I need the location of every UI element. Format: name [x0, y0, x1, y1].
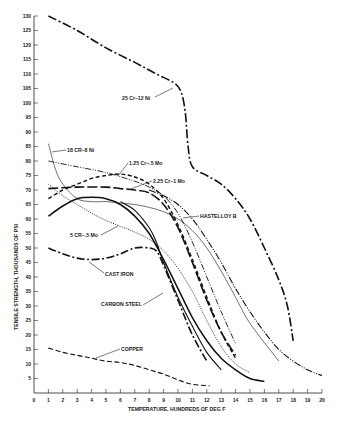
leader-cast-iron	[89, 262, 104, 273]
y-tick-label: 90	[25, 129, 31, 135]
x-tick-label: 8	[148, 397, 151, 403]
label-5cr-5mo: 5 CR–.5 Mo	[70, 232, 98, 238]
x-tick-label: 6	[119, 397, 122, 403]
x-tick-label: 9	[162, 397, 165, 403]
leader-2-25cr-1mo	[128, 181, 152, 190]
series-line-7	[48, 197, 264, 381]
y-tick-label: 20	[25, 332, 31, 338]
leader-carbon-steel	[143, 293, 163, 305]
x-tick-label: 19	[305, 397, 311, 403]
leader-18cr-8ni	[52, 150, 66, 152]
label-carbon-steel: CARBON STEEL	[101, 301, 143, 307]
label-hastelloy-b: HASTELLOY B	[200, 213, 237, 219]
series-line-10	[48, 348, 209, 386]
y-tick-label: 35	[25, 288, 31, 294]
y-tick-label: 55	[25, 230, 31, 236]
x-tick-label: 2	[61, 397, 64, 403]
x-tick-label: 0	[33, 397, 36, 403]
series-line-1	[48, 144, 278, 362]
x-axis-title: TEMPERATURE, HUNDREDS OF DEG F	[128, 406, 225, 412]
x-tick-label: 1	[47, 397, 50, 403]
series-lines	[48, 16, 322, 386]
series-line-2	[48, 161, 235, 344]
y-tick-label: 15	[25, 346, 31, 352]
y-tick-label: 85	[25, 143, 31, 149]
tensile-strength-chart: 0123456789101112131415161718192051015202…	[0, 0, 337, 421]
y-axis-title: TENSILE STRENGTH, THOUSANDS OF PSI	[13, 223, 19, 330]
y-tick-label: 70	[25, 187, 31, 193]
y-tick-label: 130	[23, 13, 32, 19]
y-tick-label: 75	[25, 172, 31, 178]
x-tick-label: 18	[290, 397, 296, 403]
x-tick-label: 16	[262, 397, 268, 403]
y-tick-label: 5	[28, 375, 31, 381]
y-tick-label: 10	[25, 361, 31, 367]
series-labels: 25 Cr–12 Ni 18 CR–8 Ni 1.25 Cr–.5 Mo 2.2…	[52, 88, 237, 358]
leader-25cr-12ni	[155, 88, 173, 97]
label-2-25cr-1mo: 2.25 Cr–1 Mo	[153, 178, 185, 184]
label-cast-iron: CAST IRON	[105, 271, 134, 277]
series-line-9	[120, 202, 221, 370]
y-tick-label: 100	[23, 100, 32, 106]
label-18cr-8ni: 18 CR–8 Ni	[67, 147, 95, 153]
x-tick-label: 10	[175, 397, 181, 403]
x-tick-label: 15	[247, 397, 253, 403]
x-tick-label: 14	[233, 397, 239, 403]
label-25cr-12ni: 25 Cr–12 Ni	[122, 95, 151, 101]
y-tick-label: 60	[25, 216, 31, 222]
y-tick-label: 65	[25, 201, 31, 207]
x-tick-label: 17	[276, 397, 282, 403]
y-tick-label: 80	[25, 158, 31, 164]
y-tick-label: 50	[25, 245, 31, 251]
leader-copper	[96, 349, 120, 358]
x-tick-label: 4	[90, 397, 93, 403]
y-tick-label: 40	[25, 274, 31, 280]
x-tick-label: 11	[190, 397, 196, 403]
y-tick-label: 30	[25, 303, 31, 309]
y-tick-label: 120	[23, 42, 32, 48]
y-tick-label: 125	[23, 27, 32, 33]
y-tick-label: 25	[25, 317, 31, 323]
label-copper: COPPER	[121, 346, 143, 352]
x-tick-label: 5	[105, 397, 108, 403]
leader-hastelloy-b	[183, 216, 199, 218]
y-tick-label: 45	[25, 259, 31, 265]
x-tick-label: 7	[133, 397, 136, 403]
axes: 0123456789101112131415161718192051015202…	[23, 13, 325, 403]
y-tick-label: 105	[23, 85, 32, 91]
series-line-3	[48, 174, 235, 358]
y-tick-label: 95	[25, 114, 31, 120]
x-tick-label: 20	[319, 397, 325, 403]
y-tick-label: 110	[23, 71, 31, 77]
label-1-25cr-5mo: 1.25 Cr–.5 Mo	[129, 160, 162, 166]
leader-5cr-5mo	[101, 226, 118, 235]
x-tick-label: 13	[218, 397, 224, 403]
x-tick-label: 12	[204, 397, 210, 403]
x-tick-label: 3	[76, 397, 79, 403]
y-tick-label: 115	[23, 56, 31, 62]
